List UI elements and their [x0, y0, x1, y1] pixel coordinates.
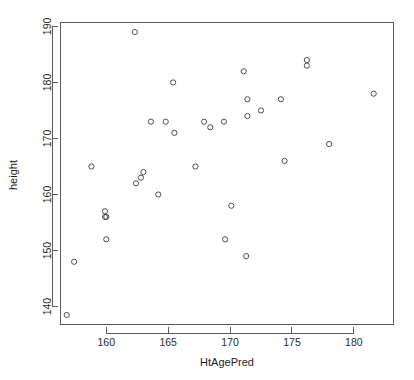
data-point: [171, 80, 176, 85]
data-point: [245, 113, 250, 118]
plot-canvas: 140150160170180190 160165170175180 HtAge…: [0, 0, 414, 380]
data-point: [304, 63, 309, 68]
data-point: [138, 175, 143, 180]
data-point: [327, 141, 332, 146]
data-point: [244, 254, 249, 259]
y-tick-label: 180: [42, 74, 54, 92]
x-axis-title: HtAgePred: [200, 356, 254, 368]
data-point: [223, 237, 228, 242]
data-point: [104, 237, 109, 242]
x-axis: 160165170175180: [98, 327, 363, 348]
plot-panel-border: [61, 23, 394, 325]
data-point: [132, 29, 137, 34]
data-point: [304, 57, 309, 62]
data-point: [172, 130, 177, 135]
data-point: [221, 119, 226, 124]
data-point: [64, 312, 69, 317]
y-axis-title: height: [7, 160, 19, 190]
data-point: [208, 125, 213, 130]
data-point: [102, 209, 107, 214]
data-point: [193, 164, 198, 169]
data-point: [282, 158, 287, 163]
y-tick-label: 140: [42, 298, 54, 316]
data-point: [156, 192, 161, 197]
data-point: [148, 119, 153, 124]
y-axis: 140150160170180190: [42, 18, 59, 316]
x-tick-label: 180: [345, 336, 363, 348]
data-point: [245, 97, 250, 102]
data-point: [72, 259, 77, 264]
x-tick-label: 175: [283, 336, 301, 348]
data-point: [133, 181, 138, 186]
x-tick-label: 170: [221, 336, 239, 348]
y-tick-label: 170: [42, 130, 54, 148]
scatter-plot-figure: 140150160170180190 160165170175180 HtAge…: [0, 0, 414, 380]
y-tick-label: 160: [42, 186, 54, 204]
data-point: [163, 119, 168, 124]
data-point: [241, 69, 246, 74]
data-points-layer: [64, 29, 376, 317]
data-point: [89, 164, 94, 169]
data-point: [202, 119, 207, 124]
x-tick-label: 160: [98, 336, 116, 348]
data-point: [278, 97, 283, 102]
x-tick-label: 165: [159, 336, 177, 348]
data-point: [258, 108, 263, 113]
data-point: [229, 203, 234, 208]
y-tick-label: 150: [42, 242, 54, 260]
y-tick-label: 190: [42, 18, 54, 36]
data-point: [371, 91, 376, 96]
data-point: [141, 170, 146, 175]
